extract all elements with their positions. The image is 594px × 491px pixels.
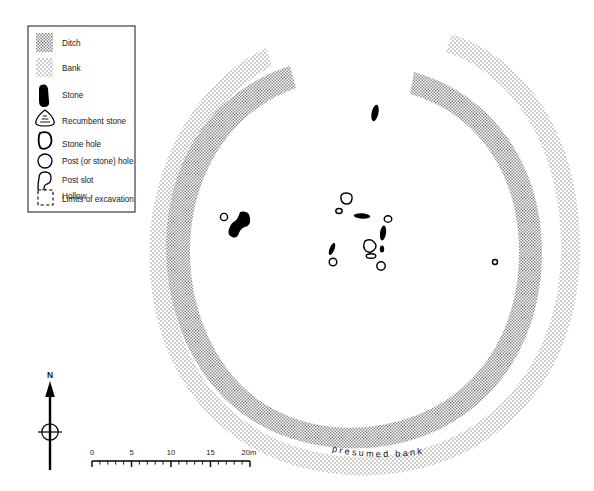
stone bbox=[380, 245, 384, 252]
stone-hole bbox=[336, 209, 342, 214]
scale-tick-label: 15 bbox=[206, 448, 214, 457]
scale-tick-label: 0 bbox=[90, 448, 94, 457]
stone-hole bbox=[384, 216, 392, 223]
plan-canvas: presumed bank N bbox=[0, 0, 594, 491]
site-plan-figure: presumed bank N bbox=[0, 0, 594, 491]
legend-item-label: Recumbent stone bbox=[62, 117, 127, 126]
post-hole bbox=[220, 213, 227, 220]
legend-item-label: Limits of excavation bbox=[62, 195, 134, 204]
legend-item-label: Post slot bbox=[62, 176, 94, 185]
legend-item-label: Stone hole bbox=[62, 140, 102, 149]
bank-swatch-icon bbox=[36, 58, 53, 77]
legend-item-label: Stone bbox=[62, 91, 84, 100]
scale-tick-label: 10 bbox=[167, 448, 175, 457]
post-hole bbox=[493, 260, 498, 265]
legend: Ditch Bank Stone Recumbent stone bbox=[28, 26, 135, 212]
post-hole bbox=[377, 262, 385, 270]
limits-of-excavation-swatch-icon bbox=[38, 190, 53, 205]
legend-item-label: Ditch bbox=[62, 39, 81, 48]
post-hole bbox=[329, 258, 337, 266]
scale-tick-label: 20m bbox=[242, 448, 257, 457]
stone-hole bbox=[366, 254, 376, 258]
legend-item-label: Bank bbox=[62, 64, 82, 73]
scale-tick-label: 5 bbox=[129, 448, 133, 457]
stone-swatch-icon bbox=[39, 85, 49, 108]
stone-hole-swatch-icon bbox=[39, 132, 52, 149]
legend-item-label: Post (or stone) hole bbox=[62, 157, 134, 166]
ditch-swatch-icon bbox=[36, 33, 53, 52]
north-label: N bbox=[47, 370, 53, 380]
stone-hole bbox=[341, 193, 352, 204]
post-hole-swatch-icon bbox=[38, 154, 52, 168]
stone-hole bbox=[364, 240, 376, 253]
